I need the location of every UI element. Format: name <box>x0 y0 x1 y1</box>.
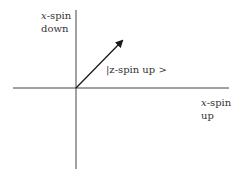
vertical-axis-label-line1: -spin <box>47 10 72 21</box>
vertical-axis-label-line2: down <box>41 22 71 35</box>
state-vector-label: |z-spin up > <box>106 63 167 76</box>
horizontal-axis-label-line2: up <box>201 109 231 122</box>
horizontal-axis-label-line1: -spin <box>207 97 232 108</box>
vertical-axis-label: x-spin down <box>41 9 71 35</box>
horizontal-axis-label: x-spin up <box>201 96 231 122</box>
